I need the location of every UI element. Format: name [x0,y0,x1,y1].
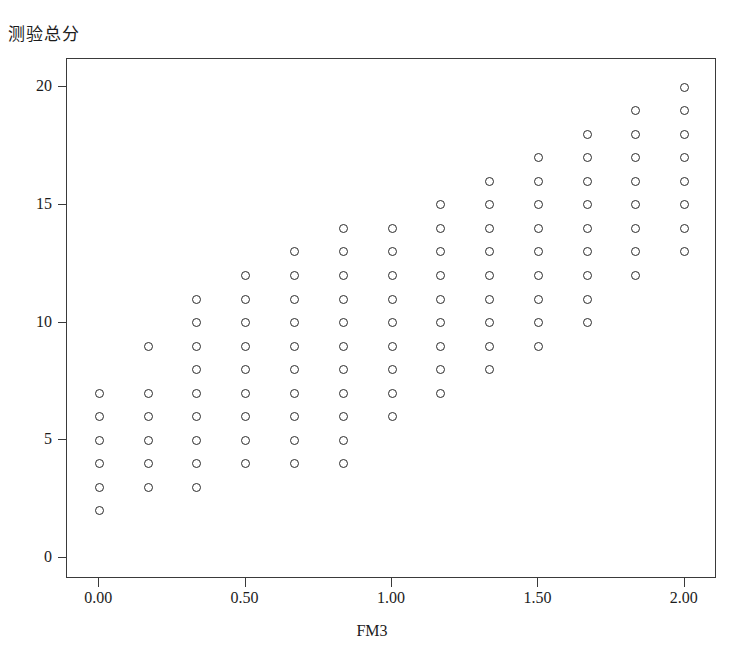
data-point [436,365,445,374]
data-point [290,247,299,256]
data-point [339,271,348,280]
data-point [95,389,104,398]
data-point [631,200,640,209]
data-point [388,224,397,233]
data-point [631,130,640,139]
data-point [680,224,689,233]
data-point [290,459,299,468]
data-point [95,459,104,468]
data-point [583,295,592,304]
data-point [144,436,153,445]
data-point [485,318,494,327]
data-point [95,436,104,445]
x-axis-title: FM3 [0,622,744,640]
y-tick-label: 0 [44,548,52,566]
data-point [339,365,348,374]
data-point [631,153,640,162]
x-tick-label: 0.00 [84,589,112,607]
data-point [583,130,592,139]
data-point [485,271,494,280]
data-point [485,177,494,186]
data-point [534,247,543,256]
data-point [144,459,153,468]
data-point [192,295,201,304]
data-point [534,224,543,233]
data-point [339,295,348,304]
data-point [388,342,397,351]
data-point [534,295,543,304]
x-tick-mark [245,578,246,587]
data-point [680,130,689,139]
data-point [485,200,494,209]
data-point [192,483,201,492]
x-tick-label: 2.00 [670,589,698,607]
data-point [436,295,445,304]
data-point [339,224,348,233]
data-point [388,389,397,398]
data-point [144,483,153,492]
data-point [241,365,250,374]
data-point [436,318,445,327]
data-point [241,271,250,280]
data-point [680,177,689,186]
data-point [534,153,543,162]
data-point [534,318,543,327]
x-tick-label: 0.50 [231,589,259,607]
y-axis-tick-labels: 05101520 [0,0,52,662]
data-point [290,436,299,445]
data-point [388,295,397,304]
data-point [388,271,397,280]
data-point [339,436,348,445]
data-point [192,412,201,421]
data-point [485,365,494,374]
data-point [144,389,153,398]
data-point [192,436,201,445]
data-point [583,153,592,162]
data-point [583,177,592,186]
scatter-plot-figure: 测验总分 05101520 0.000.501.001.502.00 FM3 [0,0,744,662]
data-point [631,247,640,256]
data-point [192,459,201,468]
data-point [436,342,445,351]
data-point [436,389,445,398]
data-point [290,412,299,421]
y-tick-label: 5 [44,430,52,448]
data-point [388,318,397,327]
data-point [485,295,494,304]
data-point [680,200,689,209]
data-point [631,106,640,115]
data-point [339,412,348,421]
x-tick-label: 1.00 [377,589,405,607]
data-point [631,177,640,186]
data-point [339,459,348,468]
data-point [192,389,201,398]
data-point [388,365,397,374]
data-point [534,271,543,280]
data-point [290,318,299,327]
data-point [680,247,689,256]
data-point [290,389,299,398]
data-point [241,295,250,304]
data-point [436,200,445,209]
data-point [534,342,543,351]
data-point [436,224,445,233]
data-point [339,389,348,398]
data-point [631,224,640,233]
data-point [436,271,445,280]
y-tick-label: 10 [36,313,52,331]
data-point [388,247,397,256]
data-point [192,365,201,374]
data-point [485,342,494,351]
data-point [290,342,299,351]
data-point [583,318,592,327]
data-point [680,153,689,162]
data-point [339,342,348,351]
data-point [680,106,689,115]
data-point [144,412,153,421]
x-tick-mark [391,578,392,587]
data-point [95,412,104,421]
data-point [192,342,201,351]
y-tick-label: 15 [36,195,52,213]
data-point [583,247,592,256]
data-point [290,365,299,374]
